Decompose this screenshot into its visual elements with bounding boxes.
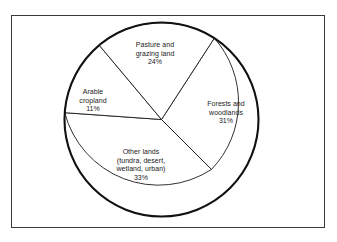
slice-label-forests-value: 31% (186, 117, 266, 126)
slice-label-other-lands: Other lands (tundra, desert, wetland, ur… (96, 148, 186, 182)
slice-label-other-line-1: Other lands (96, 148, 186, 157)
slice-label-forests-and-woodlands: Forests and woodlands 31% (186, 100, 266, 126)
slice-label-pasture-and-grazing-land: Pasture and grazing land 24% (113, 41, 197, 67)
slice-label-arable-value: 11% (62, 105, 124, 114)
slice-label-pasture-line-2: grazing land (113, 50, 197, 59)
slice-label-other-line-2: (tundra, desert, (96, 157, 186, 166)
slice-label-arable-cropland: Arable cropland 11% (62, 88, 124, 114)
pie-chart-screenshot: Pasture and grazing land 24% Forests and… (0, 0, 337, 242)
slice-label-pasture-value: 24% (113, 58, 197, 67)
slice-label-forests-line-2: woodlands (186, 109, 266, 118)
slice-label-other-value: 33% (96, 174, 186, 183)
slice-label-pasture-line-1: Pasture and (113, 41, 197, 50)
slice-label-arable-line-2: cropland (62, 97, 124, 106)
slice-label-other-line-3: wetland, urban) (96, 165, 186, 174)
slice-label-forests-line-1: Forests and (186, 100, 266, 109)
pie-chart-graphic (0, 0, 337, 242)
slice-label-arable-line-1: Arable (62, 88, 124, 97)
